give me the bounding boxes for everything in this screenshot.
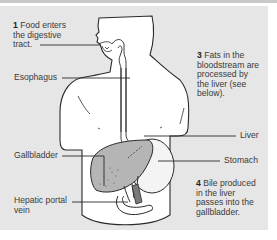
step-3-text: Fats in the bloodstream are processed by…	[197, 50, 259, 98]
step-1-text: Food enters the digestive tract.	[13, 20, 66, 49]
step-1-label: 1 Food enters the digestive tract.	[13, 21, 73, 50]
gallbladder-label: Gallbladder	[14, 151, 58, 161]
step-4-label: 4 Bile produced in the liver passes into…	[196, 179, 264, 217]
step-4-number: 4	[196, 178, 201, 188]
hepatic-portal-vein-label: Hepatic portal vein	[14, 196, 74, 215]
step-3-label: 3 Fats in the bloodstream are processed …	[197, 51, 261, 99]
step-1-number: 1	[13, 20, 18, 30]
step-4-text: Bile produced in the liver passes into t…	[196, 178, 256, 217]
step-3-number: 3	[197, 50, 202, 60]
esophagus-label: Esophagus	[14, 73, 57, 83]
liver-label: Liver	[240, 131, 259, 141]
stomach-label: Stomach	[224, 156, 258, 166]
